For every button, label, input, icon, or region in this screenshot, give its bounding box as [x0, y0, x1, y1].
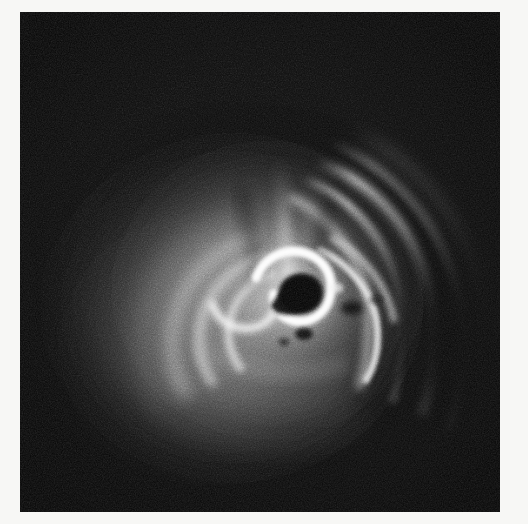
astronomical-plate [20, 12, 500, 512]
grain-overlay-screen [20, 12, 500, 512]
plate-canvas [20, 12, 500, 512]
figure-root: Grainy monochrome astronomical image of … [0, 0, 528, 524]
